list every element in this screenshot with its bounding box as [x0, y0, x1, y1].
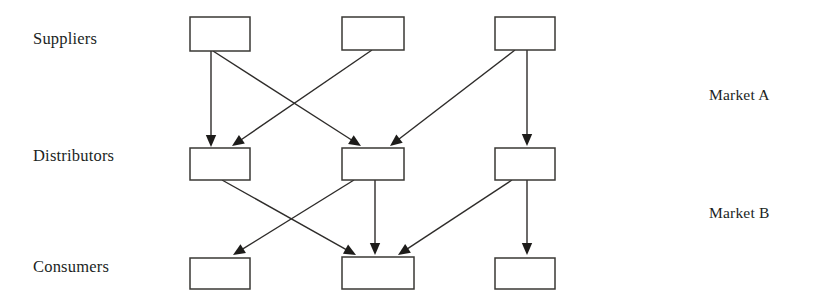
edge-arrow — [522, 50, 532, 146]
edge-arrow — [522, 180, 532, 255]
arrowhead-icon — [233, 244, 246, 255]
edge-line — [398, 50, 515, 140]
arrowhead-icon — [232, 135, 245, 146]
market-label-a: Market A — [709, 86, 770, 104]
node-box[interactable] — [495, 148, 555, 180]
node-consumer-2[interactable] — [342, 257, 414, 289]
node-supplier-2[interactable] — [342, 17, 404, 50]
arrowhead-icon — [343, 245, 356, 255]
node-distributor-3[interactable] — [495, 148, 555, 180]
arrowhead-icon — [370, 243, 380, 255]
row-label-distributors: Distributors — [33, 146, 114, 166]
node-consumer-1[interactable] — [190, 258, 250, 289]
edge-arrow — [390, 50, 515, 146]
edge-arrow — [398, 180, 512, 255]
node-supplier-3[interactable] — [495, 17, 555, 50]
node-supplier-1[interactable] — [190, 17, 250, 51]
node-box[interactable] — [342, 257, 414, 289]
node-box[interactable] — [495, 258, 555, 289]
edge-arrow — [213, 51, 361, 146]
arrowhead-icon — [390, 135, 403, 146]
edge-line — [222, 180, 347, 250]
arrowhead-icon — [522, 243, 532, 255]
node-consumer-3[interactable] — [495, 258, 555, 289]
market-label-b: Market B — [709, 204, 770, 222]
arrowhead-icon — [206, 135, 216, 147]
row-label-suppliers: Suppliers — [33, 29, 97, 49]
node-box[interactable] — [342, 148, 404, 180]
edge-arrow — [232, 50, 372, 146]
row-label-consumers: Consumers — [33, 257, 109, 277]
edge-line — [407, 180, 512, 249]
node-box[interactable] — [342, 17, 404, 50]
flow-diagram — [0, 0, 832, 308]
node-distributor-2[interactable] — [342, 148, 404, 180]
edge-arrow — [206, 51, 216, 147]
arrowhead-icon — [348, 135, 361, 146]
arrowhead-icon — [522, 134, 532, 146]
diagram-canvas: Suppliers Distributors Consumers Market … — [0, 0, 832, 308]
arrowhead-icon — [398, 244, 411, 255]
node-box[interactable] — [190, 148, 250, 180]
node-box[interactable] — [495, 17, 555, 50]
edge-line — [213, 51, 352, 140]
node-box[interactable] — [190, 258, 250, 289]
edge-line — [240, 50, 372, 140]
node-distributor-1[interactable] — [190, 148, 250, 180]
node-box[interactable] — [190, 17, 250, 51]
edge-arrow — [370, 180, 380, 255]
edge-line — [242, 180, 354, 250]
